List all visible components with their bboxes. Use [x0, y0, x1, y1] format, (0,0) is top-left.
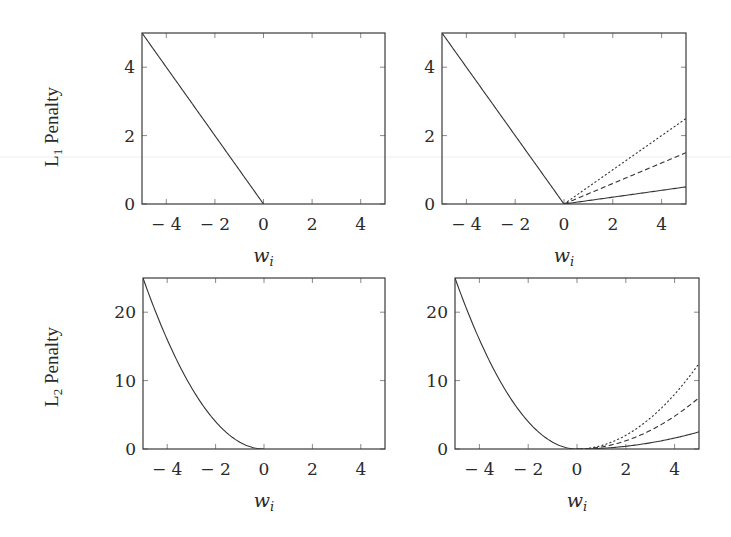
row-labels: L1 PenaltyL2 Penalty — [41, 87, 65, 407]
x-axis-label: wi — [554, 244, 574, 269]
panels: − 4− 2024024wi− 4− 2024024wi− 4− 2024010… — [114, 33, 699, 514]
plot-frame — [442, 33, 686, 204]
x-tick-label: 0 — [559, 214, 570, 234]
x-tick-label: − 4 — [151, 214, 181, 234]
panel-l1-single: − 4− 2024024wi — [124, 33, 385, 269]
x-tick-label: − 4 — [152, 459, 182, 479]
series-solid-line — [143, 278, 264, 449]
y-tick-label: 2 — [424, 126, 435, 146]
y-tick-label: 0 — [424, 194, 435, 214]
y-tick-label: 0 — [437, 439, 448, 459]
series-solid-line — [564, 187, 686, 204]
x-tick-label: 0 — [259, 459, 270, 479]
x-tick-label: 2 — [620, 459, 631, 479]
y-tick-label: 0 — [124, 194, 135, 214]
series-solid-line — [142, 33, 264, 204]
series-solid-line — [442, 33, 564, 204]
series-dashed-line — [577, 398, 699, 449]
y-tick-label: 4 — [424, 57, 435, 77]
x-tick-label: 0 — [258, 214, 269, 234]
x-axis-label: wi — [254, 489, 274, 514]
penalty-figure: L1 PenaltyL2 Penalty − 4− 2024024wi− 4− … — [0, 0, 731, 537]
panel-l2-single: − 4− 202401020wi — [114, 278, 385, 514]
x-tick-label: 2 — [307, 459, 318, 479]
x-axis-label: wi — [253, 244, 273, 269]
series-dotted-line — [564, 119, 686, 205]
series-solid-line — [577, 432, 699, 449]
x-tick-label: 2 — [607, 214, 618, 234]
y-tick-label: 20 — [426, 302, 448, 322]
y-tick-label: 4 — [124, 57, 135, 77]
panel-l2-scaled: − 4− 202401020wi — [426, 278, 699, 514]
x-tick-label: − 2 — [500, 214, 530, 234]
y-axis-label-row-1: L1 Penalty — [41, 87, 65, 167]
series-solid-line — [455, 278, 577, 449]
x-tick-label: 2 — [307, 214, 318, 234]
plot-frame — [143, 278, 385, 449]
x-tick-label: 0 — [572, 459, 583, 479]
y-tick-label: 10 — [426, 371, 448, 391]
y-axis-label-row-2: L2 Penalty — [41, 327, 65, 407]
y-tick-label: 2 — [124, 126, 135, 146]
x-tick-label: 4 — [669, 459, 680, 479]
y-tick-label: 0 — [125, 439, 136, 459]
x-tick-label: 4 — [355, 214, 366, 234]
x-tick-label: − 4 — [451, 214, 481, 234]
x-axis-label: wi — [567, 489, 587, 514]
x-tick-label: − 2 — [200, 214, 230, 234]
y-tick-label: 20 — [114, 302, 136, 322]
plot-frame — [142, 33, 385, 204]
x-tick-label: 4 — [355, 459, 366, 479]
x-tick-label: − 4 — [464, 459, 494, 479]
panel-l1-scaled: − 4− 2024024wi — [424, 33, 686, 269]
x-tick-label: − 2 — [200, 459, 230, 479]
x-tick-label: 4 — [656, 214, 667, 234]
y-tick-label: 10 — [114, 371, 136, 391]
series-dashed-line — [564, 153, 686, 204]
x-tick-label: − 2 — [513, 459, 543, 479]
